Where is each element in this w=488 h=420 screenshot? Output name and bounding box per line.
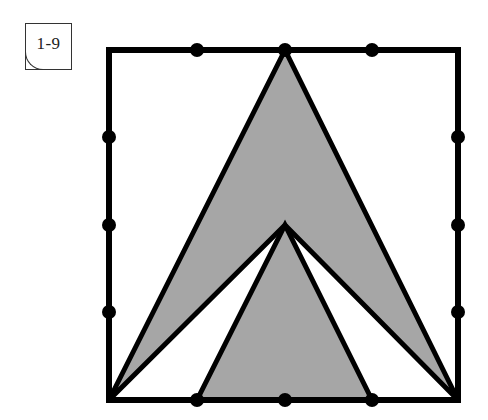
grid-dot [190, 43, 204, 57]
grid-dot [102, 305, 116, 319]
grid-dot [102, 130, 116, 144]
grid-dot [365, 43, 379, 57]
grid-dot [365, 393, 379, 407]
grid-dot [278, 393, 292, 407]
geometry-figure [0, 0, 488, 420]
grid-dot [451, 305, 465, 319]
grid-dot [278, 43, 292, 57]
grid-dot [451, 218, 465, 232]
grid-dot [190, 393, 204, 407]
grid-dot [451, 130, 465, 144]
grid-dot [102, 218, 116, 232]
